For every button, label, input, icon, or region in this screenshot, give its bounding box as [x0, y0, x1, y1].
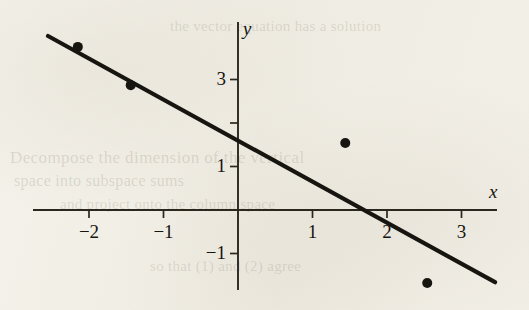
- y-tick-label: −1: [192, 242, 226, 264]
- data-point-marker: [126, 80, 136, 90]
- x-tick-label: 1: [296, 221, 330, 243]
- data-point-marker: [73, 42, 83, 52]
- x-tick-label: −2: [72, 221, 106, 243]
- y-tick-label: 1: [192, 155, 226, 177]
- y-tick-label: 3: [192, 68, 226, 90]
- data-point-marker: [422, 278, 432, 288]
- least-squares-line: [48, 36, 495, 282]
- tick-mark-group: [89, 80, 462, 254]
- x-tick-label: 3: [445, 221, 479, 243]
- figure-panel: Decompose the dimension of the vertical …: [0, 0, 529, 310]
- x-tick-label: 2: [370, 221, 404, 243]
- x-axis-label: x: [489, 181, 497, 203]
- plot-canvas: [0, 0, 529, 310]
- y-axis-label: y: [243, 18, 251, 40]
- regression-line-group: [48, 36, 495, 282]
- data-point-marker: [340, 138, 350, 148]
- x-tick-label: −1: [147, 221, 181, 243]
